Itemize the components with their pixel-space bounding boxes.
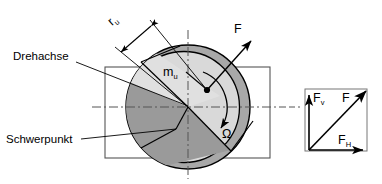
label-drehachse: Drehachse [13,50,69,62]
diagram-canvas: ru mu Ω F Drehachse Schwerpunkt Fv F FH [0,0,382,184]
label-schwerpunkt: Schwerpunkt [6,133,73,145]
label-force-rotor: F [234,22,242,36]
label-force-resultant: F [342,91,350,105]
label-omega: Ω [222,127,231,141]
